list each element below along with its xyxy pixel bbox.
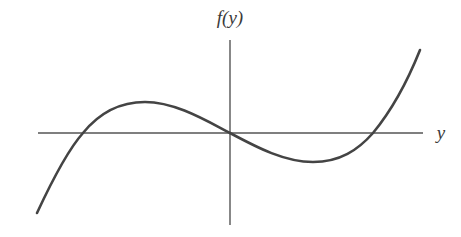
y-axis-label: f(y) bbox=[217, 7, 243, 29]
x-axis-label: y bbox=[435, 122, 446, 143]
function-curve bbox=[37, 50, 420, 213]
function-graph: f(y) y bbox=[0, 0, 461, 237]
